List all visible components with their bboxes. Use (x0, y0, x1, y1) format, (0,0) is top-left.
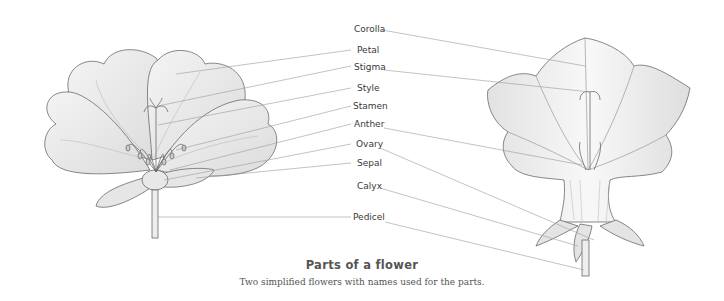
figure-title: Parts of a flower (0, 258, 724, 272)
figure-caption: Two simplified flowers with names used f… (0, 277, 724, 287)
label-petal: Petal (357, 45, 379, 55)
label-ovary: Ovary (356, 139, 383, 149)
bell-flower-drawing (488, 38, 690, 276)
open-flower-drawing (45, 50, 277, 238)
label-calyx: Calyx (357, 181, 382, 191)
label-sepal: Sepal (357, 158, 382, 168)
leader-calyx (380, 188, 578, 246)
label-anther: Anther (354, 119, 384, 129)
flower-parts-diagram: Corolla Petal Stigma Style Stamen Anther… (0, 0, 724, 301)
label-corolla: Corolla (354, 24, 385, 34)
label-stigma: Stigma (354, 62, 386, 72)
label-stamen: Stamen (353, 101, 388, 111)
leader-corolla (382, 30, 585, 66)
label-pedicel: Pedicel (353, 212, 385, 222)
label-style: Style (357, 83, 380, 93)
